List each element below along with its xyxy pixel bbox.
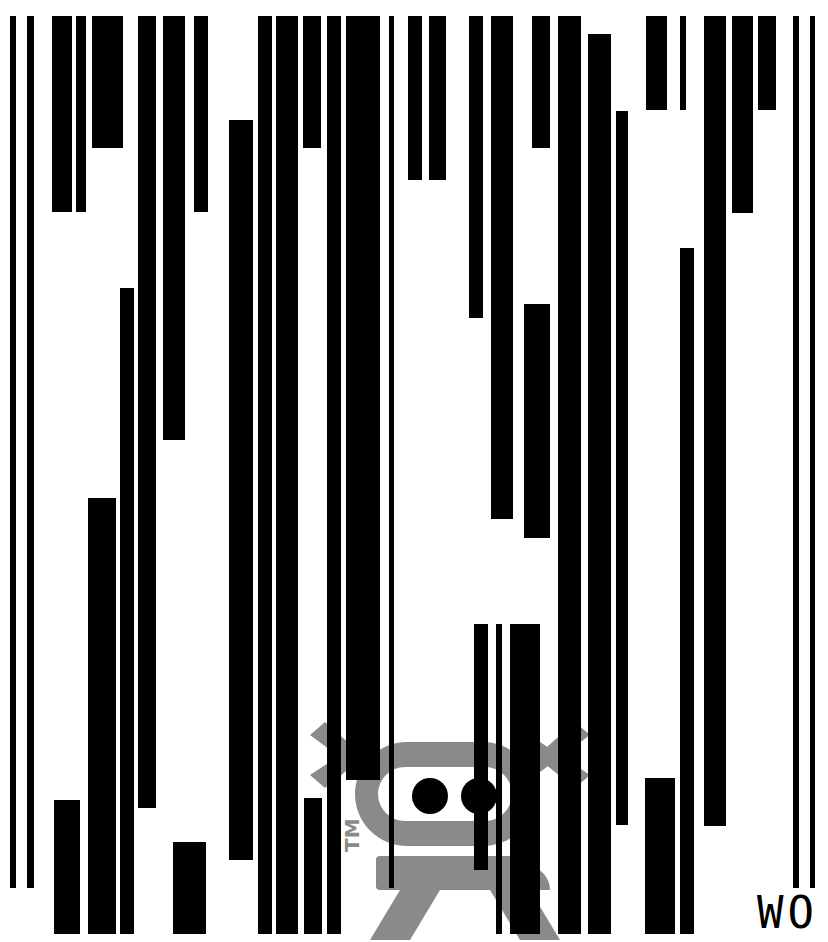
barcode-bar [304,798,322,934]
brand-mark: WO [757,887,818,938]
barcode-bar [496,624,502,934]
barcode-bar [163,16,185,440]
barcode-bar [510,624,540,934]
barcode-bar [645,778,675,934]
barcode-bar [758,16,776,110]
barcode-bar [389,16,394,888]
barcode-bar [52,16,72,212]
barcode-bar [76,16,86,212]
barcode-bar [303,16,321,148]
barcode-bar [491,16,513,519]
barcode-bar [194,16,208,212]
barcode-bar [810,16,815,888]
barcode-bar [173,842,206,934]
barcode-bar [680,16,686,110]
barcode-bar [10,16,16,888]
barcode-bar [120,288,134,934]
barcode-bar [558,16,581,934]
artwork-canvas: TM WO [0,0,828,942]
barcode-bar [27,16,34,888]
barcode-bar [732,16,753,213]
barcode-bar [680,248,694,934]
barcode-bar [327,16,341,934]
barcode-bar [524,304,550,538]
barcode-bar [704,16,726,826]
barcode-bar [92,16,123,148]
barcode-bar [408,16,422,180]
barcode-bar [54,800,80,934]
barcode-bar [88,498,116,934]
barcode-bar [646,16,667,110]
barcode-bar [429,16,446,180]
trademark-label: TM [340,818,364,852]
barcode-bar [276,16,298,934]
barcode-bar [346,16,380,780]
barcode-bar [588,34,611,934]
barcode-bar [793,16,799,888]
barcode-bar [258,16,272,934]
barcode-bar [229,120,253,860]
barcode-bar [616,111,628,825]
barcode-bar [469,16,483,318]
barcode-bar [532,16,550,148]
barcode-bar [474,624,488,870]
barcode-bar [138,16,156,808]
